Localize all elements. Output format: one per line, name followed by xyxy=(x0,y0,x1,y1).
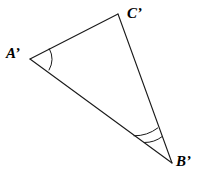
triangle-diagram-svg xyxy=(0,0,200,182)
geometry-figure: A’ C’ B’ xyxy=(0,0,200,182)
vertex-label-b-prime: B’ xyxy=(176,154,191,169)
vertex-label-c-prime: C’ xyxy=(127,6,142,21)
angle-arc-b-2 xyxy=(134,128,158,136)
angle-arc-a-1 xyxy=(49,49,52,70)
edge-c-to-b xyxy=(118,14,172,163)
edge-b-to-a xyxy=(30,59,172,163)
angle-arc-b-1 xyxy=(145,137,163,143)
vertex-label-a-prime: A’ xyxy=(6,46,20,61)
edge-a-to-c xyxy=(30,14,118,59)
